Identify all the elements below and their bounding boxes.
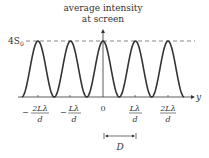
axis-arrow-right-icon bbox=[191, 95, 195, 99]
peak-label: 4S0 bbox=[8, 36, 24, 47]
intensity-diagram: average intensity at screen 4S0 y − 2Lλ … bbox=[0, 0, 209, 158]
svg-text:0: 0 bbox=[100, 104, 105, 113]
svg-text:−: − bbox=[60, 108, 67, 117]
title-line2: at screen bbox=[82, 14, 124, 24]
svg-text:−: − bbox=[22, 108, 29, 117]
axis-arrow-up-icon bbox=[101, 29, 105, 33]
spacing-label: D bbox=[115, 142, 123, 152]
arrow-left-icon bbox=[105, 135, 108, 138]
svg-text:d: d bbox=[165, 115, 170, 124]
svg-text:d: d bbox=[37, 115, 42, 124]
svg-text:Lλ: Lλ bbox=[129, 104, 140, 113]
svg-text:2Lλ: 2Lλ bbox=[159, 104, 175, 113]
title-line1: average intensity bbox=[63, 3, 143, 13]
svg-text:d: d bbox=[132, 115, 137, 124]
axis-label: y bbox=[195, 92, 202, 102]
svg-text:Lλ: Lλ bbox=[68, 104, 79, 113]
spacing-indicator bbox=[104, 133, 136, 139]
tick-labels: − 2Lλ d − Lλ d 0 Lλ d 2Lλ d bbox=[22, 104, 176, 124]
svg-text:d: d bbox=[71, 115, 76, 124]
arrow-right-icon bbox=[132, 135, 135, 138]
svg-text:2Lλ: 2Lλ bbox=[31, 104, 47, 113]
